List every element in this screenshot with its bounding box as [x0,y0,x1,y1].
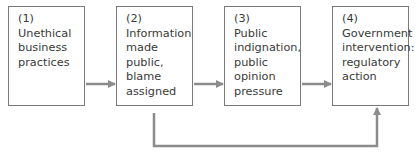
node-text: public [234,56,300,71]
node-text: business [18,41,84,56]
node-text: intervention: [342,41,408,56]
node-text: Government [342,27,408,42]
node-text: opinion [234,70,300,85]
node-2-information-public: (2) Information made public, blame assig… [116,6,193,106]
node-number: (3) [234,12,300,27]
node-3-public-indignation: (3) Public indignation, public opinion p… [224,6,301,106]
node-text: assigned [126,85,192,100]
node-text: made public, [126,41,192,70]
node-4-government-intervention: (4) Government intervention: regulatory … [332,6,409,106]
node-text: Information [126,27,192,42]
node-text: action [342,70,408,85]
node-text: Public [234,27,300,42]
node-text: Unethical [18,27,84,42]
node-text: blame [126,70,192,85]
node-text: practices [18,56,84,71]
node-number: (1) [18,12,84,27]
node-text: regulatory [342,56,408,71]
node-number: (4) [342,12,408,27]
node-text: indignation, [234,41,300,56]
node-1-unethical-practices: (1) Unethical business practices [8,6,85,106]
arrow-2-to-4-bypass [154,108,377,146]
node-number: (2) [126,12,192,27]
node-text: pressure [234,85,300,100]
